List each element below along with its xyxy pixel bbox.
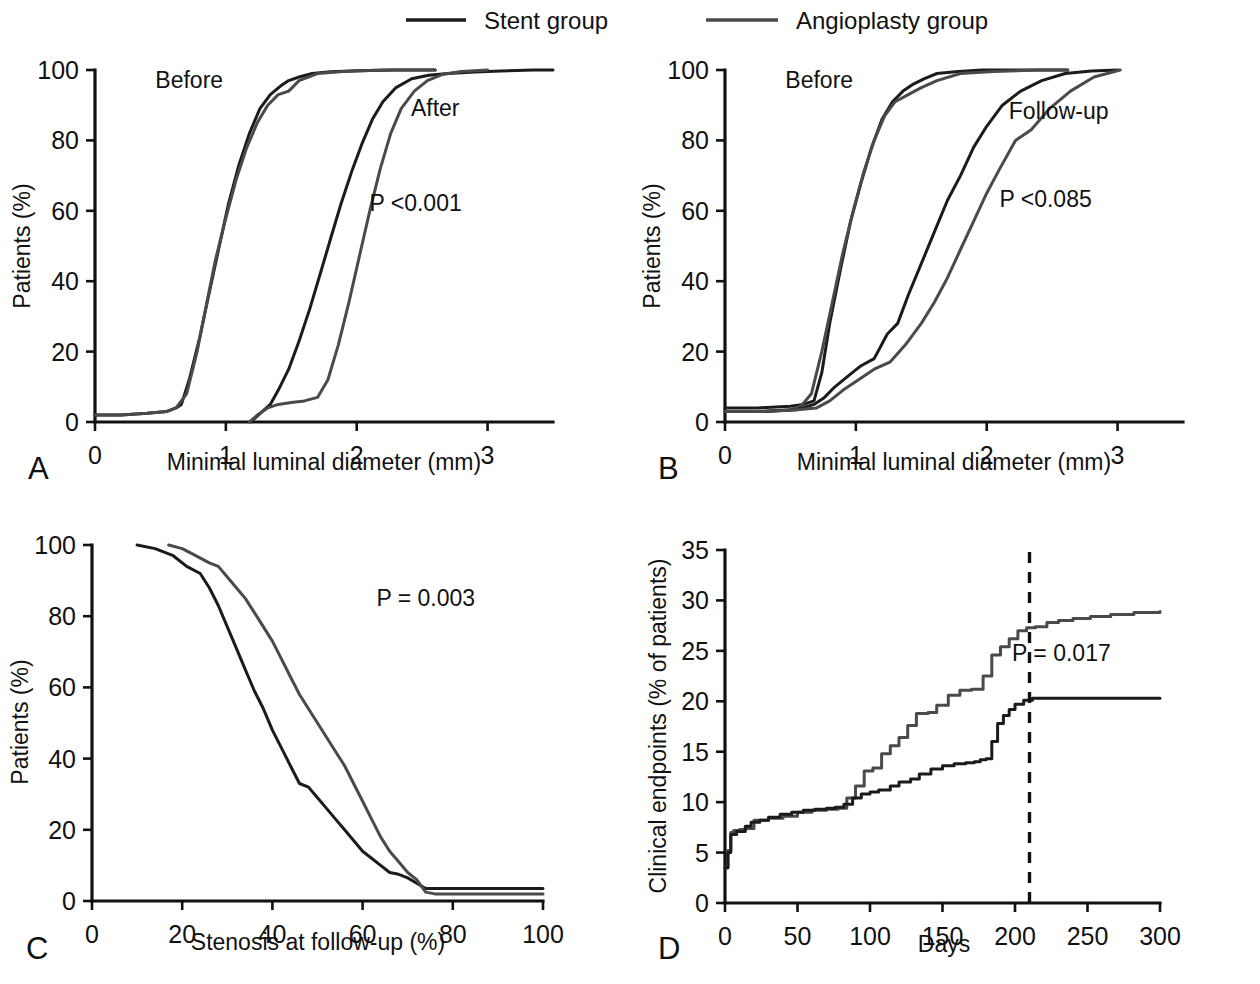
y-tick-label: 10 (681, 788, 709, 816)
annotation-p-0-001: P <0.001 (369, 190, 461, 216)
y-tick-label: 100 (667, 56, 709, 84)
panel-D-letter: D (658, 931, 680, 966)
panel-C-curves (137, 545, 543, 894)
panel-C-x-axis-label: Stenosis at follow-up (%) (191, 929, 445, 955)
x-tick-label: 100 (522, 920, 564, 948)
y-tick-label: 100 (37, 56, 79, 84)
y-tick-label: 40 (681, 267, 709, 295)
x-tick-label: 0 (88, 441, 102, 469)
panel-A-y-ticks: 020406080100 (37, 56, 95, 436)
x-tick-label: 3 (481, 441, 495, 469)
panel-B-annotations: BeforeFollow-upP <0.085 (785, 67, 1108, 213)
annotation-before: Before (155, 67, 223, 93)
panel-A-x-axis-label: Minimal luminal diameter (mm) (167, 449, 481, 475)
x-tick-label: 3 (1111, 441, 1125, 469)
legend-item-angioplasty: Angioplasty group (706, 7, 988, 34)
panel-C: 020406080100 020406080100 P = 0.003 Sten… (7, 531, 564, 966)
panel-A-curves (95, 70, 553, 422)
curve-stent-group-after (249, 70, 553, 422)
panel-C-axes: 020406080100 020406080100 (34, 531, 564, 948)
y-tick-label: 20 (51, 338, 79, 366)
annotation-p-0-085: P <0.085 (999, 186, 1091, 212)
y-tick-label: 60 (48, 673, 76, 701)
y-tick-label: 0 (65, 408, 79, 436)
panel-C-letter: C (26, 931, 48, 966)
legend-item-stent: Stent group (406, 7, 608, 34)
annotation-p-0-003: P = 0.003 (376, 585, 475, 611)
panel-A-letter: A (28, 451, 49, 486)
y-tick-label: 80 (51, 126, 79, 154)
y-tick-label: 40 (51, 267, 79, 295)
x-tick-label: 300 (1139, 922, 1181, 950)
panel-C-y-ticks: 020406080100 (34, 531, 92, 915)
panel-C-annotations: P = 0.003 (376, 585, 475, 611)
curve-stent-group-before (95, 70, 435, 415)
x-tick-label: 100 (849, 922, 891, 950)
x-tick-label: 200 (994, 922, 1036, 950)
panel-C-y-axis-label: Patients (%) (7, 659, 33, 784)
panel-B-y-axis-label: Patients (%) (639, 183, 665, 308)
panel-A: 020406080100 0123 BeforeAfterP <0.001 Mi… (9, 56, 553, 486)
annotation-p-0-017: P = 0.017 (1012, 640, 1111, 666)
y-tick-label: 35 (681, 536, 709, 564)
panel-B-x-axis-label: Minimal luminal diameter (mm) (797, 449, 1111, 475)
y-tick-label: 20 (681, 338, 709, 366)
panel-D-y-ticks: 05101520253035 (681, 536, 725, 917)
y-tick-label: 30 (681, 586, 709, 614)
y-tick-label: 5 (695, 839, 709, 867)
y-tick-label: 100 (34, 531, 76, 559)
y-tick-label: 60 (51, 197, 79, 225)
x-tick-label: 0 (85, 920, 99, 948)
y-tick-label: 80 (48, 602, 76, 630)
curve-angioplasty-group-before (95, 70, 435, 415)
y-tick-label: 0 (695, 889, 709, 917)
y-tick-label: 20 (681, 687, 709, 715)
panel-D-axes: 05101520253035 050100150200250300 (681, 536, 1181, 950)
curve-stent-group (137, 545, 543, 889)
y-tick-label: 20 (48, 816, 76, 844)
annotation-before: Before (785, 67, 853, 93)
panel-D: 05101520253035 050100150200250300 P = 0.… (645, 536, 1181, 966)
y-tick-label: 25 (681, 637, 709, 665)
panel-B-letter: B (658, 451, 679, 486)
annotation-follow-up: Follow-up (1009, 98, 1109, 124)
x-tick-label: 0 (718, 441, 732, 469)
panel-B-y-ticks: 020406080100 (667, 56, 725, 436)
y-tick-label: 60 (681, 197, 709, 225)
y-tick-label: 80 (681, 126, 709, 154)
curve-stent-group (725, 698, 1160, 867)
legend-label-stent: Stent group (484, 7, 608, 34)
panel-A-axes: 020406080100 0123 (37, 56, 553, 469)
x-tick-label: 250 (1067, 922, 1109, 950)
annotation-after: After (411, 95, 460, 121)
y-tick-label: 0 (695, 408, 709, 436)
panel-D-annotations: P = 0.017 (1012, 640, 1111, 666)
y-tick-label: 15 (681, 738, 709, 766)
y-tick-label: 0 (62, 887, 76, 915)
panel-B: 020406080100 0123 BeforeFollow-upP <0.08… (639, 56, 1183, 486)
curve-angioplasty-group-after (249, 70, 487, 422)
x-tick-label: 0 (718, 922, 732, 950)
panel-D-y-axis-label: Clinical endpoints (% of patients) (645, 559, 671, 894)
panel-A-y-axis-label: Patients (%) (9, 183, 35, 308)
legend-label-angioplasty: Angioplasty group (796, 7, 988, 34)
y-tick-label: 40 (48, 745, 76, 773)
panel-D-x-axis-label: Days (918, 931, 970, 957)
figure-root: Stent group Angioplasty group 0204060801… (0, 0, 1260, 984)
legend: Stent group Angioplasty group (406, 7, 988, 34)
x-tick-label: 50 (784, 922, 812, 950)
